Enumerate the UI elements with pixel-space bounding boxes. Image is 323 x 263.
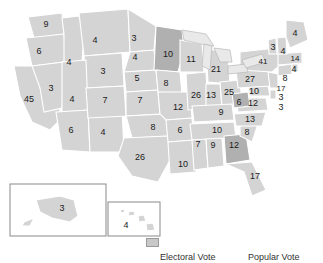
vote-label-TX: 26 [135, 152, 145, 162]
vote-label-TN: 10 [212, 125, 222, 135]
vote-label-VT: 3 [270, 42, 275, 52]
vote-label-SC: 8 [244, 127, 249, 137]
vote-label-NJ: 17 [277, 84, 286, 93]
vote-label-WV: 6 [236, 97, 241, 107]
map-footer: Electoral Vote Popular Vote [0, 240, 323, 263]
vote-label-KS: 7 [137, 95, 142, 105]
vote-label-WY: 3 [100, 66, 105, 76]
vote-label-MO: 12 [173, 102, 183, 112]
popular-vote-label: Popular Vote [248, 252, 300, 262]
state-ND[interactable] [128, 9, 156, 52]
vote-label-OH: 25 [224, 87, 234, 97]
vote-label-FL: 17 [250, 171, 260, 181]
vote-label-IL: 26 [191, 90, 201, 100]
vote-label-MT: 4 [92, 35, 97, 45]
state-KY[interactable] [192, 104, 234, 122]
vote-label-ID: 4 [66, 57, 71, 67]
vote-label-MA: 14 [291, 54, 300, 63]
vote-label-SD: 4 [132, 52, 137, 62]
alaska-votes: 3 [59, 203, 64, 213]
vote-label-PA: 27 [245, 74, 255, 84]
vote-label-IA: 8 [163, 78, 168, 88]
vote-label-CO: 7 [102, 95, 107, 105]
vote-label-MD: 10 [249, 86, 259, 96]
electoral-vote-label: Electoral Vote [160, 252, 216, 262]
vote-label-AL: 9 [210, 140, 215, 150]
state-OR[interactable] [26, 34, 66, 66]
vote-label-NH: 4 [280, 46, 285, 56]
alaska-inset[interactable]: 3 [10, 184, 106, 236]
legend-swatch-icon [146, 238, 159, 247]
vote-label-DE: 3 [278, 92, 283, 102]
vote-label-MN: 10 [163, 49, 173, 59]
vote-label-WI: 11 [186, 54, 195, 64]
vote-label-AR: 6 [177, 125, 182, 135]
vote-label-ND: 3 [131, 33, 136, 43]
vote-label-NE: 5 [134, 73, 139, 83]
vote-label-WA: 9 [43, 19, 48, 29]
state-NE[interactable] [124, 70, 158, 92]
vote-label-NY: 41 [259, 57, 268, 66]
vote-label-NM: 4 [100, 127, 105, 137]
state-UT[interactable] [62, 60, 88, 112]
vote-label-RI: 4 [291, 64, 296, 74]
state-OK[interactable] [126, 114, 168, 138]
state-shapes [14, 9, 308, 196]
vote-label-MI: 21 [211, 64, 221, 74]
map-svg[interactable]: 9645344346473457826108126101126211325910… [0, 0, 323, 240]
us-electoral-map[interactable]: 9645344346473457826108126101126211325910… [0, 0, 323, 240]
vote-label-IN: 13 [206, 90, 216, 100]
hawaii-inset[interactable]: 4 [108, 202, 160, 236]
state-KS[interactable] [126, 90, 160, 116]
state-DE[interactable] [270, 90, 276, 99]
vote-label-MS: 7 [195, 139, 200, 149]
vote-label-LA: 10 [178, 159, 188, 169]
vote-label-OR: 6 [36, 46, 41, 56]
vote-label-ME: 4 [292, 28, 297, 38]
vote-label-KY: 9 [218, 107, 223, 117]
vote-label-DC: 3 [278, 102, 283, 112]
vote-label-AZ: 6 [68, 125, 73, 135]
hawaii-votes: 4 [123, 220, 128, 230]
state-MT[interactable] [79, 9, 130, 56]
state-IA[interactable] [156, 70, 182, 94]
vote-label-NC: 13 [245, 114, 255, 124]
state-SD[interactable] [124, 50, 156, 72]
vote-label-OK: 8 [150, 122, 155, 132]
vote-label-GA: 12 [229, 140, 239, 150]
vote-label-UT: 4 [69, 94, 74, 104]
vote-label-NV: 3 [48, 83, 53, 93]
vote-label-CT: 8 [282, 73, 287, 83]
electoral-map-page: 9645344346473457826108126101126211325910… [0, 0, 323, 263]
vote-label-VA: 12 [248, 98, 258, 108]
vote-label-CA: 45 [24, 94, 34, 104]
